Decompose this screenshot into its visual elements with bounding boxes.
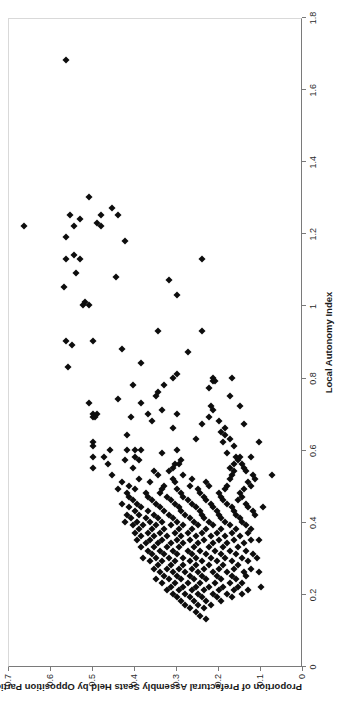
scatter-point — [211, 580, 218, 587]
scatter-point — [241, 540, 248, 547]
scatter-point — [247, 453, 254, 460]
scatter-point — [146, 558, 153, 565]
y-tick-mark — [260, 667, 261, 671]
scatter-point — [136, 457, 143, 464]
x-tick-mark — [302, 450, 306, 451]
scatter-point — [138, 446, 145, 453]
scatter-point — [138, 360, 145, 367]
scatter-points-layer — [9, 19, 301, 666]
x-tick-mark — [302, 17, 306, 18]
y-tick-mark — [92, 667, 93, 671]
scatter-point — [186, 536, 193, 543]
x-tick-mark — [302, 233, 306, 234]
scatter-point — [89, 443, 96, 450]
y-tick-mark — [50, 667, 51, 671]
scatter-point — [104, 461, 111, 468]
x-tick-label: 1.8 — [309, 12, 318, 25]
scatter-point — [218, 576, 225, 583]
scatter-point — [224, 450, 231, 457]
scatter-point — [98, 223, 105, 230]
scatter-point — [159, 406, 166, 413]
scatter-point — [255, 439, 262, 446]
scatter-point — [226, 392, 233, 399]
x-tick-label: 0.6 — [309, 444, 318, 457]
scatter-point — [230, 536, 237, 543]
scatter-point — [123, 446, 130, 453]
scatter-point — [66, 212, 73, 219]
scatter-point — [62, 255, 69, 262]
y-tick-mark — [218, 667, 219, 671]
y-tick-mark — [134, 667, 135, 671]
scatter-point — [220, 439, 227, 446]
scatter-point — [144, 410, 151, 417]
scatter-point — [20, 223, 27, 230]
scatter-point — [68, 342, 75, 349]
scatter-point — [228, 594, 235, 601]
scatter-point — [127, 414, 134, 421]
x-tick-label: 1.6 — [309, 84, 318, 97]
y-axis-title: Proportion of Prefectural Assembly Seats… — [8, 683, 302, 693]
scatter-point — [136, 475, 143, 482]
scatter-point — [167, 522, 174, 529]
y-tick-mark — [8, 667, 9, 671]
scatter-point — [159, 518, 166, 525]
scatter-point — [241, 421, 248, 428]
x-tick-mark — [302, 378, 306, 379]
scatter-point — [115, 212, 122, 219]
scatter-point — [62, 57, 69, 64]
scatter-point — [89, 464, 96, 471]
scatter-point — [203, 616, 210, 623]
scatter-point — [180, 471, 187, 478]
scatter-point — [60, 284, 67, 291]
scatter-point — [184, 349, 191, 356]
y-tick-mark — [302, 667, 303, 671]
x-tick-mark — [302, 89, 306, 90]
scatter-point — [247, 565, 254, 572]
x-tick-label: 1.2 — [309, 228, 318, 241]
scatter-point — [228, 374, 235, 381]
scatter-point — [218, 598, 225, 605]
scatter-point — [230, 443, 237, 450]
x-tick-label: 0.4 — [309, 517, 318, 530]
scatter-point — [236, 533, 243, 540]
scatter-point — [268, 471, 275, 478]
scatter-point — [257, 583, 264, 590]
scatter-point — [155, 327, 162, 334]
scatter-point — [98, 212, 105, 219]
scatter-point — [119, 479, 126, 486]
scatter-point — [155, 471, 162, 478]
x-tick-label: 1.4 — [309, 156, 318, 169]
scatter-point — [201, 605, 208, 612]
scatter-point — [85, 194, 92, 201]
scatter-point — [115, 396, 122, 403]
scatter-point — [239, 590, 246, 597]
scatter-point — [243, 572, 250, 579]
scatter-point — [62, 233, 69, 240]
scatter-point — [165, 468, 172, 475]
scatter-point — [171, 479, 178, 486]
scatter-point — [222, 533, 229, 540]
scatter-point — [123, 432, 130, 439]
scatter-point — [205, 385, 212, 392]
x-tick-mark — [302, 522, 306, 523]
scatter-point — [108, 471, 115, 478]
scatter-point — [113, 273, 120, 280]
x-tick-mark — [302, 594, 306, 595]
x-tick-mark — [302, 161, 306, 162]
x-tick-mark — [302, 305, 306, 306]
scatter-point — [209, 522, 216, 529]
scatter-chart-figure: 00.20.40.60.811.21.41.61.8 00.10.20.30.4… — [0, 0, 341, 703]
x-tick-label: 0 — [309, 664, 318, 669]
figure-rotation-wrapper: 00.20.40.60.811.21.41.61.8 00.10.20.30.4… — [0, 0, 341, 703]
scatter-point — [85, 302, 92, 309]
scatter-point — [226, 580, 233, 587]
scatter-point — [209, 406, 216, 413]
scatter-point — [188, 475, 195, 482]
x-tick-label: 0.2 — [309, 589, 318, 602]
scatter-point — [77, 255, 84, 262]
scatter-point — [161, 381, 168, 388]
scatter-point — [148, 417, 155, 424]
y-tick-mark — [176, 667, 177, 671]
scatter-point — [71, 223, 78, 230]
scatter-point — [245, 558, 252, 565]
